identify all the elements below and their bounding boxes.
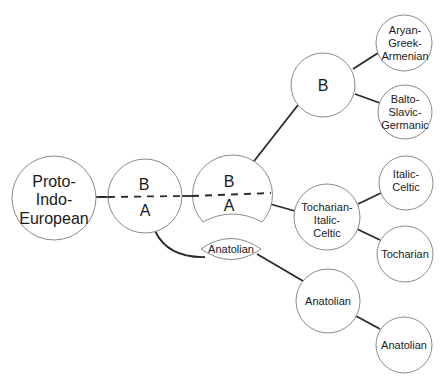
balto-label-line-1: Balto- [391,93,420,105]
pie-label-line-3: European [19,210,88,227]
indo-european-tree-diagram: Proto- Indo- European B A B A Anatolian … [0,0,446,388]
toch-ital-label-line-3: Celtic [313,227,341,239]
node-proto-indo-european: Proto- Indo- European [12,156,96,240]
edge-toch-ital-italic-celtic [358,193,381,204]
aryan-label-line-2: Greek- [388,37,422,49]
node-split-2: B A [192,155,273,222]
edge-b-node-balto [355,94,380,103]
anatolian-end-label: Anatolian [381,339,427,351]
italic-label-line-1: Italic- [393,168,420,180]
edge-split2-b-node [251,105,298,165]
node-italic-celtic: Italic- Celtic [379,156,433,210]
node-balto-slavic-germanic: Balto- Slavic- Germanic [378,85,432,139]
split2-bottom-label: A [224,197,235,214]
node-aryan-greek-armenian: Aryan- Greek- Armenian [376,15,432,71]
node-tocharian-italic-celtic: Tocharian- Italic- Celtic [294,184,360,250]
edge-anatolian-lens-anatolian-mid [257,254,303,281]
aryan-label-line-1: Aryan- [389,24,422,36]
tocharian-label: Tocharian [381,248,429,260]
pie-label-line-2: Indo- [36,191,72,208]
split1-bottom-label: A [140,202,151,219]
edge-toch-ital-tocharian [357,229,380,240]
aryan-label-line-3: Armenian [381,50,428,62]
node-b: B [291,53,355,117]
split1-top-label: B [139,176,150,193]
node-anatolian-mid: Anatolian [296,269,360,333]
node-tocharian: Tocharian [377,226,433,282]
edge-anatolian-mid-anatolian-end [356,316,380,329]
node-anatolian-end: Anatolian [376,317,432,373]
node-split-1: B A [108,159,182,233]
edge-split2-tocharian-italic-celtic [270,204,295,211]
pie-label-line-1: Proto- [32,173,76,190]
balto-label-line-3: Germanic [381,119,429,131]
italic-label-line-2: Celtic [392,181,420,193]
b-node-label: B [318,77,329,94]
node-anatolian-lens: Anatolian [201,239,261,260]
toch-ital-label-line-1: Tocharian- [301,201,353,213]
anatolian-lens-label: Anatolian [208,243,254,255]
toch-ital-label-line-2: Italic- [314,214,341,226]
edge-b-node-aryan [353,53,378,69]
edge-split1-anatolian-lens [155,231,205,257]
anatolian-mid-label: Anatolian [305,295,351,307]
split2-top-label: B [224,173,235,190]
balto-label-line-2: Slavic- [388,106,421,118]
